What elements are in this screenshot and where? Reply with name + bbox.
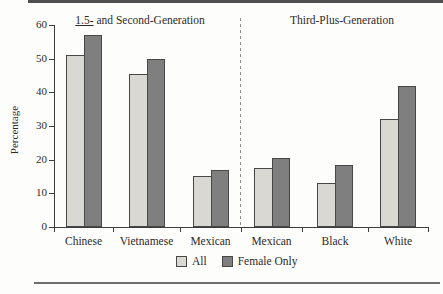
x-tick-mark-1: [113, 228, 114, 232]
category-label-mexican-2: Mexican: [190, 235, 230, 247]
y-tick-mark-20: [49, 160, 54, 161]
bar-mexican-2-female-only: [211, 170, 229, 227]
section-title-right: Third-Plus-Generation: [290, 14, 394, 26]
legend-item-all: All: [176, 255, 207, 267]
y-tick-mark-60: [49, 25, 54, 26]
bar-chart: 1.5- and Second-Generation Third-Plus-Ge…: [0, 0, 443, 294]
y-tick-mark-50: [49, 59, 54, 60]
y-tick-mark-30: [49, 126, 54, 127]
bar-white-5-all: [380, 119, 399, 227]
x-tick-mark-2: [180, 228, 181, 232]
legend-swatch-female-only: [222, 256, 233, 267]
x-tick-mark-4: [302, 228, 303, 232]
category-label-chinese-0: Chinese: [65, 235, 102, 247]
legend-label-all: All: [192, 255, 207, 267]
top-rule: [28, 0, 443, 3]
legend-label-female-only: Female Only: [238, 255, 298, 267]
bar-white-5-female-only: [398, 86, 416, 227]
bar-vietnamese-1-all: [129, 74, 148, 227]
y-tick-label-30: 30: [21, 119, 47, 132]
x-tick-mark-6: [428, 228, 429, 232]
y-tick-label-60: 60: [21, 18, 47, 31]
bar-vietnamese-1-female-only: [147, 59, 165, 227]
x-tick-mark-0: [54, 228, 55, 232]
x-tick-mark-5: [368, 228, 369, 232]
section-title-left-underlined: 1.5-: [75, 14, 93, 26]
category-label-black-4: Black: [322, 235, 349, 247]
legend: All Female Only: [176, 255, 297, 267]
bar-black-4-all: [317, 183, 336, 227]
y-tick-label-10: 10: [21, 186, 47, 199]
section-title-left-rest: and Second-Generation: [94, 14, 205, 26]
y-tick-mark-40: [49, 92, 54, 93]
y-axis-label: Percentage: [8, 95, 20, 165]
y-tick-label-40: 40: [21, 85, 47, 98]
legend-swatch-all: [176, 256, 187, 267]
y-tick-label-20: 20: [21, 153, 47, 166]
bar-chinese-0-all: [66, 55, 85, 227]
y-tick-mark-10: [49, 193, 54, 194]
x-tick-mark-3: [241, 228, 242, 232]
section-divider-dashed-line: [240, 18, 241, 227]
y-tick-label-50: 50: [21, 52, 47, 65]
category-label-mexican-3: Mexican: [251, 235, 291, 247]
category-label-vietnamese-1: Vietnamese: [120, 235, 174, 247]
category-label-white-5: White: [384, 235, 412, 247]
y-tick-label-0: 0: [21, 220, 47, 233]
bar-mexican-3-all: [254, 168, 273, 227]
bar-mexican-3-female-only: [272, 158, 290, 227]
bar-black-4-female-only: [335, 165, 353, 227]
bottom-rule: [34, 282, 440, 284]
y-axis-line: [54, 25, 55, 228]
legend-item-female-only: Female Only: [222, 255, 298, 267]
bar-mexican-2-all: [193, 176, 212, 227]
bar-chinese-0-female-only: [84, 35, 102, 227]
section-title-left: 1.5- and Second-Generation: [75, 14, 204, 26]
